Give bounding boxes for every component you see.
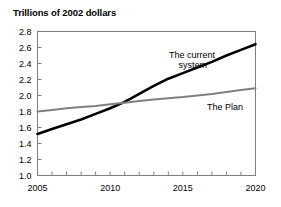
y-tick-label-1.6: 1.6 — [19, 123, 32, 133]
y-tick-label-2.4: 2.4 — [19, 59, 32, 69]
y-tick-label-1.0: 1.0 — [19, 171, 32, 181]
series-label-the-plan: The Plan — [207, 102, 243, 112]
x-tick-label-2015: 2015 — [173, 183, 193, 193]
y-axis-ticks — [38, 32, 42, 176]
x-tick-label-2020: 2020 — [245, 183, 265, 193]
data-series-group — [38, 44, 256, 134]
series-line-current-system — [38, 44, 256, 134]
x-axis-ticks — [38, 172, 256, 176]
y-tick-label-2.2: 2.2 — [19, 75, 32, 85]
y-tick-label-2.0: 2.0 — [19, 91, 32, 101]
y-tick-label-2.6: 2.6 — [19, 43, 32, 53]
y-tick-label-1.2: 1.2 — [19, 155, 32, 165]
y-tick-label-1.4: 1.4 — [19, 139, 32, 149]
x-tick-label-2010: 2010 — [100, 183, 120, 193]
y-tick-label-2.8: 2.8 — [19, 27, 32, 37]
series-label-current-system-line1: The current — [169, 50, 216, 60]
y-axis-tick-labels: 1.01.21.41.61.82.02.22.42.62.8 — [19, 27, 32, 181]
x-axis-tick-labels: 2005201020152020 — [27, 183, 265, 193]
line-chart-plot: 1.01.21.41.61.82.02.22.42.62.8 200520102… — [0, 0, 281, 207]
chart-figure: Trillions of 2002 dollars 1.01.21.41.61.… — [0, 0, 281, 207]
y-tick-label-1.8: 1.8 — [19, 107, 32, 117]
series-label-current-system-line2: system — [178, 60, 207, 70]
x-tick-label-2005: 2005 — [27, 183, 47, 193]
